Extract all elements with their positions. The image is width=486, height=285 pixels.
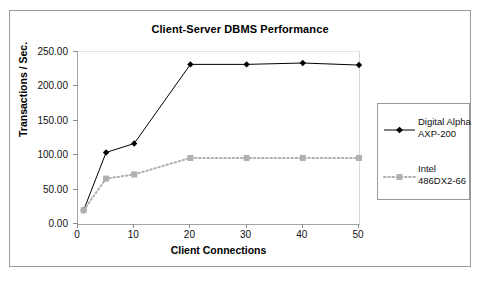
legend-marker-icon bbox=[383, 169, 416, 181]
data-point bbox=[187, 155, 193, 161]
data-point bbox=[244, 155, 250, 161]
y-tick-mark bbox=[73, 189, 78, 190]
legend-item-2[interactable]: Intel486DX2-66 bbox=[378, 163, 469, 197]
data-point bbox=[300, 155, 306, 161]
legend-marker-icon bbox=[383, 122, 416, 134]
x-tick-mark bbox=[77, 224, 78, 228]
x-tick-label: 50 bbox=[352, 229, 363, 240]
data-point bbox=[131, 140, 137, 146]
y-tick-mark bbox=[73, 120, 78, 121]
y-tick-label: 100.00 bbox=[16, 149, 68, 160]
x-tick-mark bbox=[189, 224, 190, 228]
x-tick-mark bbox=[246, 224, 247, 228]
x-tick-label: 20 bbox=[184, 229, 195, 240]
legend-item-1[interactable]: Digital AlphaAXP-200 bbox=[378, 116, 469, 150]
legend-label-line2: AXP-200 bbox=[418, 128, 471, 140]
data-point bbox=[243, 61, 249, 67]
chart-legend: Digital AlphaAXP-200Intel486DX2-66 bbox=[377, 103, 470, 200]
x-tick-label: 0 bbox=[74, 229, 80, 240]
data-point bbox=[103, 149, 109, 155]
y-tick-label: 50.00 bbox=[16, 183, 68, 194]
y-tick-mark bbox=[73, 154, 78, 155]
y-tick-label: 0.00 bbox=[16, 218, 68, 229]
chart-title: Client-Server DBMS Performance bbox=[10, 23, 470, 35]
y-tick-mark bbox=[73, 51, 78, 52]
y-tick-label: 250.00 bbox=[16, 46, 68, 57]
x-tick-mark bbox=[302, 224, 303, 228]
x-tick-label: 40 bbox=[296, 229, 307, 240]
data-point bbox=[356, 155, 362, 161]
series-1 bbox=[80, 60, 362, 214]
data-point bbox=[81, 207, 87, 213]
data-point bbox=[356, 62, 362, 68]
legend-label-line1: Digital Alpha bbox=[418, 116, 471, 128]
y-tick-label: 200.00 bbox=[16, 80, 68, 91]
legend-label: Digital AlphaAXP-200 bbox=[418, 116, 471, 140]
data-point bbox=[131, 171, 137, 177]
series-line bbox=[84, 63, 359, 210]
y-tick-label: 150.00 bbox=[16, 114, 68, 125]
plot-area bbox=[77, 51, 360, 225]
data-point bbox=[103, 176, 109, 182]
data-point bbox=[300, 60, 306, 66]
legend-label-line1: Intel bbox=[418, 163, 466, 175]
plot-svg bbox=[78, 52, 359, 224]
data-point bbox=[187, 61, 193, 67]
series-2 bbox=[81, 155, 362, 213]
legend-label-line2: 486DX2-66 bbox=[418, 175, 466, 187]
x-tick-label: 30 bbox=[240, 229, 251, 240]
series-line bbox=[84, 158, 359, 210]
x-tick-mark bbox=[133, 224, 134, 228]
y-tick-mark bbox=[73, 85, 78, 86]
legend-label: Intel486DX2-66 bbox=[418, 163, 466, 187]
x-axis-title: Client Connections bbox=[77, 244, 360, 256]
x-tick-mark bbox=[358, 224, 359, 228]
x-tick-label: 10 bbox=[128, 229, 139, 240]
chart-frame: Client-Server DBMS Performance Transacti… bbox=[9, 10, 471, 267]
